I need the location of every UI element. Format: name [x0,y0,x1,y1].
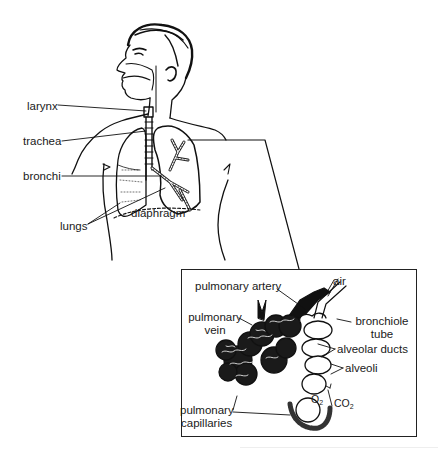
footer-divider [240,447,438,448]
label-bronchiole-tube-line1: bronchiole [351,315,413,327]
label-alveoli: alveoli [345,362,378,374]
callout-connector [188,140,299,269]
label-trachea: trachea [23,135,61,147]
label-pulmonary-capillaries-line2: capillaries [181,417,232,429]
label-bronchi: bronchi [23,170,61,182]
label-lungs: lungs [60,220,88,232]
label-pulmonary-vein-line1: pulmonary [186,311,244,323]
o2-text: O [311,393,319,405]
label-larynx: larynx [27,100,58,112]
label-pulmonary-artery: pulmonary artery [195,280,281,292]
label-alveolar-ducts: alveolar ducts [337,343,408,355]
label-air: air [333,275,346,287]
head-outline [117,24,192,118]
o2-subscript: 2 [319,399,323,406]
left-lung-drawing [152,126,200,214]
right-lung-drawing [117,128,147,216]
co2-text: CO [334,397,350,409]
label-diaphragm: diaphragm [131,207,185,219]
label-co2: CO2 [334,397,354,413]
co2-subscript: 2 [350,403,354,410]
label-pulmonary-capillaries-line1: pulmonary [180,404,234,416]
torso-outline [72,114,230,260]
label-o2: O2 [311,393,323,409]
label-bronchiole-tube-line2: tube [351,328,413,340]
label-pulmonary-vein-line2: vein [186,324,244,336]
